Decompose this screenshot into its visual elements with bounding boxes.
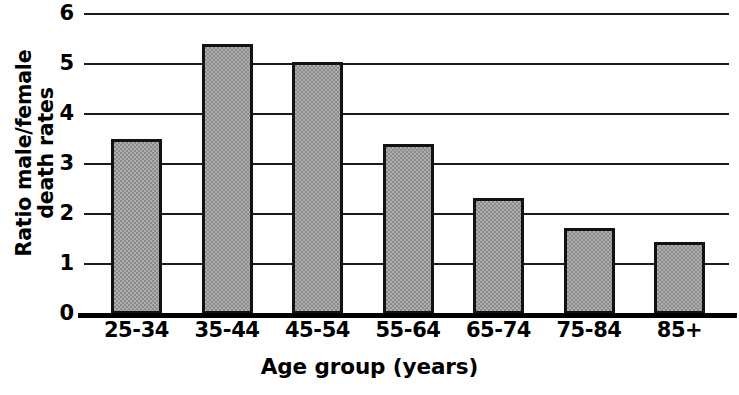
y-tick-label: 0: [48, 303, 74, 324]
y-tick-label: 2: [48, 203, 74, 224]
bar: [292, 62, 343, 315]
x-tick-label: 55-64: [363, 320, 454, 341]
plot-area: [84, 14, 729, 314]
x-tick-label: 45-54: [272, 320, 363, 341]
bar-chart: Ratio male/female death rates 0123456 25…: [0, 0, 739, 395]
bar: [111, 139, 162, 314]
y-tick-label: 5: [48, 53, 74, 74]
bar: [202, 44, 253, 314]
x-tick-label: 65-74: [453, 320, 544, 341]
y-tick-label: 1: [48, 253, 74, 274]
x-tick-label: 85+: [634, 320, 725, 341]
x-tick-label: 25-34: [91, 320, 182, 341]
y-tick-label: 3: [48, 153, 74, 174]
y-tick-label: 6: [48, 3, 74, 24]
gridline: [84, 113, 729, 115]
bar: [564, 228, 615, 314]
x-tick-label: 75-84: [544, 320, 635, 341]
gridline: [84, 63, 729, 65]
bar: [383, 144, 434, 314]
y-axis-title-line-1: Ratio male/female: [14, 50, 36, 257]
bar: [654, 242, 705, 314]
y-tick-label: 4: [48, 103, 74, 124]
x-axis-title: Age group (years): [0, 354, 739, 379]
x-tick-label: 35-44: [182, 320, 273, 341]
gridline: [84, 13, 729, 15]
bar: [473, 198, 524, 315]
